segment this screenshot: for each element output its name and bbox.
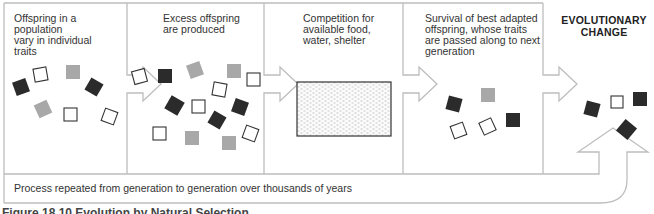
panel-survival-label: Survival of best adapted offspring, whos… (425, 13, 543, 57)
competition-resource-box (297, 82, 391, 136)
label-line: traits (14, 46, 124, 57)
hollow-offspring-square (611, 96, 623, 108)
evolution-flow-diagram: Offspring in a population vary in indivi… (0, 0, 654, 214)
hollow-offspring-square (450, 122, 467, 139)
gray-offspring-square (185, 131, 199, 145)
hollow-offspring-square (33, 67, 48, 82)
dark-offspring-square (207, 110, 226, 129)
gray-offspring-square (186, 61, 204, 79)
evolutionary-change-title: EVOLUTIONARY CHANGE (556, 14, 652, 38)
hollow-offspring-square (192, 100, 205, 113)
hollow-offspring-square (101, 108, 118, 125)
gray-offspring-square (222, 136, 236, 150)
panel-variation-label: Offspring in a population vary in indivi… (14, 13, 124, 57)
dark-offspring-square (231, 98, 249, 116)
gray-offspring-square (34, 100, 53, 119)
title-line: CHANGE (556, 26, 652, 38)
dark-offspring-square (12, 78, 30, 96)
title-line: EVOLUTIONARY (556, 14, 652, 26)
label-line: water, shelter (303, 35, 403, 46)
dark-offspring-square (445, 95, 462, 112)
feedback-loop-label: Process repeated from generation to gene… (14, 182, 352, 194)
dark-offspring-square (633, 92, 647, 106)
panel-competition-label: Competition for available food, water, s… (303, 13, 403, 46)
panel-overproduction-label: Excess offspring are produced (163, 13, 263, 35)
dark-offspring-square (583, 100, 600, 117)
gray-offspring-square (481, 88, 495, 102)
hollow-offspring-square (247, 73, 260, 86)
hollow-offspring-square (153, 127, 166, 140)
figure-caption: Figure 18.10 Evolution by Natural Select… (2, 206, 249, 214)
hollow-offspring-square (242, 125, 259, 142)
dark-offspring-square (506, 113, 520, 127)
gray-offspring-square (66, 65, 80, 79)
gray-offspring-square (227, 64, 241, 78)
dark-offspring-square (84, 77, 103, 96)
hollow-offspring-square (479, 118, 496, 135)
dark-offspring-square (158, 69, 172, 83)
label-line: generation (425, 46, 543, 57)
hollow-offspring-square (212, 82, 227, 97)
hollow-offspring-square (64, 108, 77, 121)
hollow-offspring-square (132, 69, 148, 85)
dark-offspring-square (164, 95, 184, 115)
label-line: Offspring in a population (14, 13, 124, 35)
dark-offspring-square (616, 119, 637, 140)
label-line: are produced (163, 24, 263, 35)
